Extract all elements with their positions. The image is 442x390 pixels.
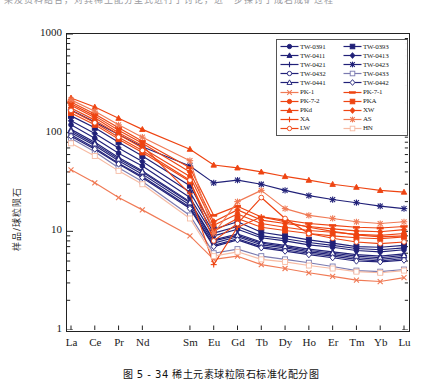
legend-item-tw-0442[interactable]: TW-0442 xyxy=(343,78,404,87)
figure-caption: 图 5 - 34 稀土元素球粒陨石标准化配分图 xyxy=(0,366,442,381)
x-tick-label-tm: Tm xyxy=(349,336,364,348)
legend-symbol-triangle-icon xyxy=(280,78,299,87)
legend-label: PK-1 xyxy=(300,88,314,96)
x-axis-labels: LaCePrNdSmEuGdTbDyHoErTmYbLu xyxy=(66,336,410,356)
legend-item-xw[interactable]: XW xyxy=(343,106,404,115)
legend-symbol-cross-icon xyxy=(280,88,299,97)
chart-legend: TW-0391TW-0393TW-0411TW-0413TW-0421TW-04… xyxy=(276,39,408,136)
legend-item-pk-7-2[interactable]: PK-7-2 xyxy=(280,97,341,106)
ree-chart-figure: 样品/球粒陨石 1101001000 LaCePrNdSmEuGdTbDyHoE… xyxy=(0,12,442,362)
legend-label: HN xyxy=(363,124,373,132)
legend-item-pk-7-1[interactable]: PK-7-1 xyxy=(343,87,404,96)
legend-label: PKd xyxy=(300,106,312,114)
x-tick-label-lu: Lu xyxy=(398,336,410,348)
legend-label: TW-0423 xyxy=(363,61,388,69)
legend-symbol-circle-icon xyxy=(280,124,299,133)
legend-item-lw[interactable]: LW xyxy=(280,124,341,133)
legend-symbol-diamond-icon xyxy=(343,78,362,87)
legend-symbol-square-icon xyxy=(343,97,362,106)
x-tick-label-sm: Sm xyxy=(183,336,198,348)
legend-label: TW-0411 xyxy=(300,52,325,60)
y-tick-label: 10 xyxy=(26,223,62,235)
legend-item-tw-0441[interactable]: TW-0441 xyxy=(280,78,341,87)
legend-symbol-plus-icon xyxy=(280,60,299,69)
x-tick-label-pr: Pr xyxy=(114,336,124,348)
legend-item-pk-1[interactable]: PK-1 xyxy=(280,87,341,96)
legend-symbol-triangle-icon xyxy=(280,106,299,115)
legend-label: TW-0393 xyxy=(363,43,388,51)
legend-symbol-triangle-icon xyxy=(280,51,299,60)
legend-label: PK-7-1 xyxy=(363,88,382,96)
legend-item-tw-0433[interactable]: TW-0433 xyxy=(343,69,404,78)
legend-symbol-square-icon xyxy=(343,124,362,133)
legend-item-xa[interactable]: XA xyxy=(280,115,341,124)
legend-item-as[interactable]: AS xyxy=(343,115,404,124)
x-tick-label-er: Er xyxy=(328,336,338,348)
legend-label: AS xyxy=(363,115,372,123)
x-tick-label-dy: Dy xyxy=(279,336,292,348)
legend-item-tw-0391[interactable]: TW-0391 xyxy=(280,42,341,51)
x-tick-label-gd: Gd xyxy=(231,336,244,348)
page-cut-text: 果及资料结合，对其稀土配分型式进行了讨论，进一步探讨了成岩成矿过程 xyxy=(0,0,442,12)
legend-item-tw-0421[interactable]: TW-0421 xyxy=(280,60,341,69)
x-tick-label-nd: Nd xyxy=(136,336,149,348)
legend-symbol-asterisk-icon xyxy=(343,60,362,69)
legend-label: XW xyxy=(363,106,374,114)
legend-label: XA xyxy=(300,115,310,123)
legend-symbol-asterisk-icon xyxy=(343,115,362,124)
legend-item-tw-0432[interactable]: TW-0432 xyxy=(280,69,341,78)
y-axis-ticks: 1101001000 xyxy=(22,12,62,352)
legend-item-tw-0423[interactable]: TW-0423 xyxy=(343,60,404,69)
legend-symbol-square-icon xyxy=(343,69,362,78)
legend-symbol-circle-icon xyxy=(280,97,299,106)
y-tick-label: 100 xyxy=(26,125,62,137)
legend-symbol-square-icon xyxy=(343,42,362,51)
legend-label: TW-0433 xyxy=(363,70,388,78)
legend-item-pka[interactable]: PKA xyxy=(343,97,404,106)
y-tick-label: 1000 xyxy=(26,26,62,38)
legend-label: TW-0441 xyxy=(300,79,325,87)
x-tick-label-ce: Ce xyxy=(89,336,101,348)
legend-item-tw-0413[interactable]: TW-0413 xyxy=(343,51,404,60)
legend-label: PKA xyxy=(363,97,376,105)
x-tick-label-yb: Yb xyxy=(374,336,387,348)
x-tick-label-eu: Eu xyxy=(208,336,220,348)
legend-item-hn[interactable]: HN xyxy=(343,124,404,133)
legend-symbol-circle-icon xyxy=(280,69,299,78)
x-tick-label-la: La xyxy=(66,336,78,348)
x-tick-label-tb: Tb xyxy=(256,336,268,348)
legend-label: LW xyxy=(300,124,310,132)
legend-item-tw-0393[interactable]: TW-0393 xyxy=(343,42,404,51)
legend-item-tw-0411[interactable]: TW-0411 xyxy=(280,51,341,60)
y-tick-label: 1 xyxy=(26,322,62,334)
legend-label: TW-0391 xyxy=(300,43,325,51)
legend-symbol-plus-icon xyxy=(280,115,299,124)
legend-label: TW-0442 xyxy=(363,79,388,87)
legend-symbol-dash-icon xyxy=(343,88,362,97)
legend-label: TW-0432 xyxy=(300,70,325,78)
legend-label: PK-7-2 xyxy=(300,97,319,105)
figure-page: 果及资料结合，对其稀土配分型式进行了讨论，进一步探讨了成岩成矿过程 样品/球粒陨… xyxy=(0,0,442,390)
legend-symbol-diamond-icon xyxy=(343,51,362,60)
x-tick-label-ho: Ho xyxy=(303,336,316,348)
legend-symbol-diamond-icon xyxy=(343,106,362,115)
legend-label: TW-0421 xyxy=(300,61,325,69)
legend-symbol-circle-icon xyxy=(280,42,299,51)
legend-item-pkd[interactable]: PKd xyxy=(280,106,341,115)
legend-label: TW-0413 xyxy=(363,52,388,60)
